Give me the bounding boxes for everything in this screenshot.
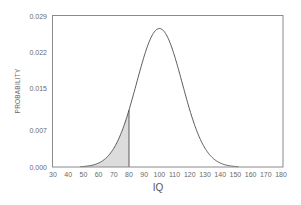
- y-axis-ticks: 0.0000.0070.0150.0220.029: [29, 13, 47, 171]
- x-axis-title: IQ: [153, 182, 164, 193]
- x-axis-ticks: 3040506070809010011012013014015016017018…: [49, 171, 287, 178]
- x-tick-label: 180: [275, 171, 287, 178]
- x-tick-label: 130: [199, 171, 211, 178]
- x-tick-label: 140: [214, 171, 226, 178]
- shaded-region-below-80: [80, 110, 129, 167]
- y-tick-label: 0.007: [29, 127, 47, 134]
- x-tick-label: 60: [95, 171, 103, 178]
- x-tick-label: 80: [125, 171, 133, 178]
- normal-curve: [80, 29, 238, 167]
- x-tick-label: 70: [110, 171, 118, 178]
- x-tick-label: 170: [260, 171, 272, 178]
- x-tick-label: 40: [64, 171, 72, 178]
- x-tick-label: 100: [154, 171, 166, 178]
- y-axis-title: PROBABILITY: [14, 68, 21, 113]
- x-tick-label: 160: [245, 171, 257, 178]
- x-tick-label: 90: [140, 171, 148, 178]
- y-tick-label: 0.022: [29, 49, 47, 56]
- y-tick-label: 0.015: [29, 85, 47, 92]
- x-tick-label: 30: [49, 171, 57, 178]
- x-tick-label: 120: [184, 171, 196, 178]
- y-tick-label: 0.000: [29, 164, 47, 171]
- x-tick-label: 110: [169, 171, 180, 178]
- x-tick-label: 50: [80, 171, 88, 178]
- x-tick-label: 150: [230, 171, 242, 178]
- y-tick-label: 0.029: [29, 13, 47, 20]
- iq-distribution-chart: 3040506070809010011012013014015016017018…: [0, 0, 301, 205]
